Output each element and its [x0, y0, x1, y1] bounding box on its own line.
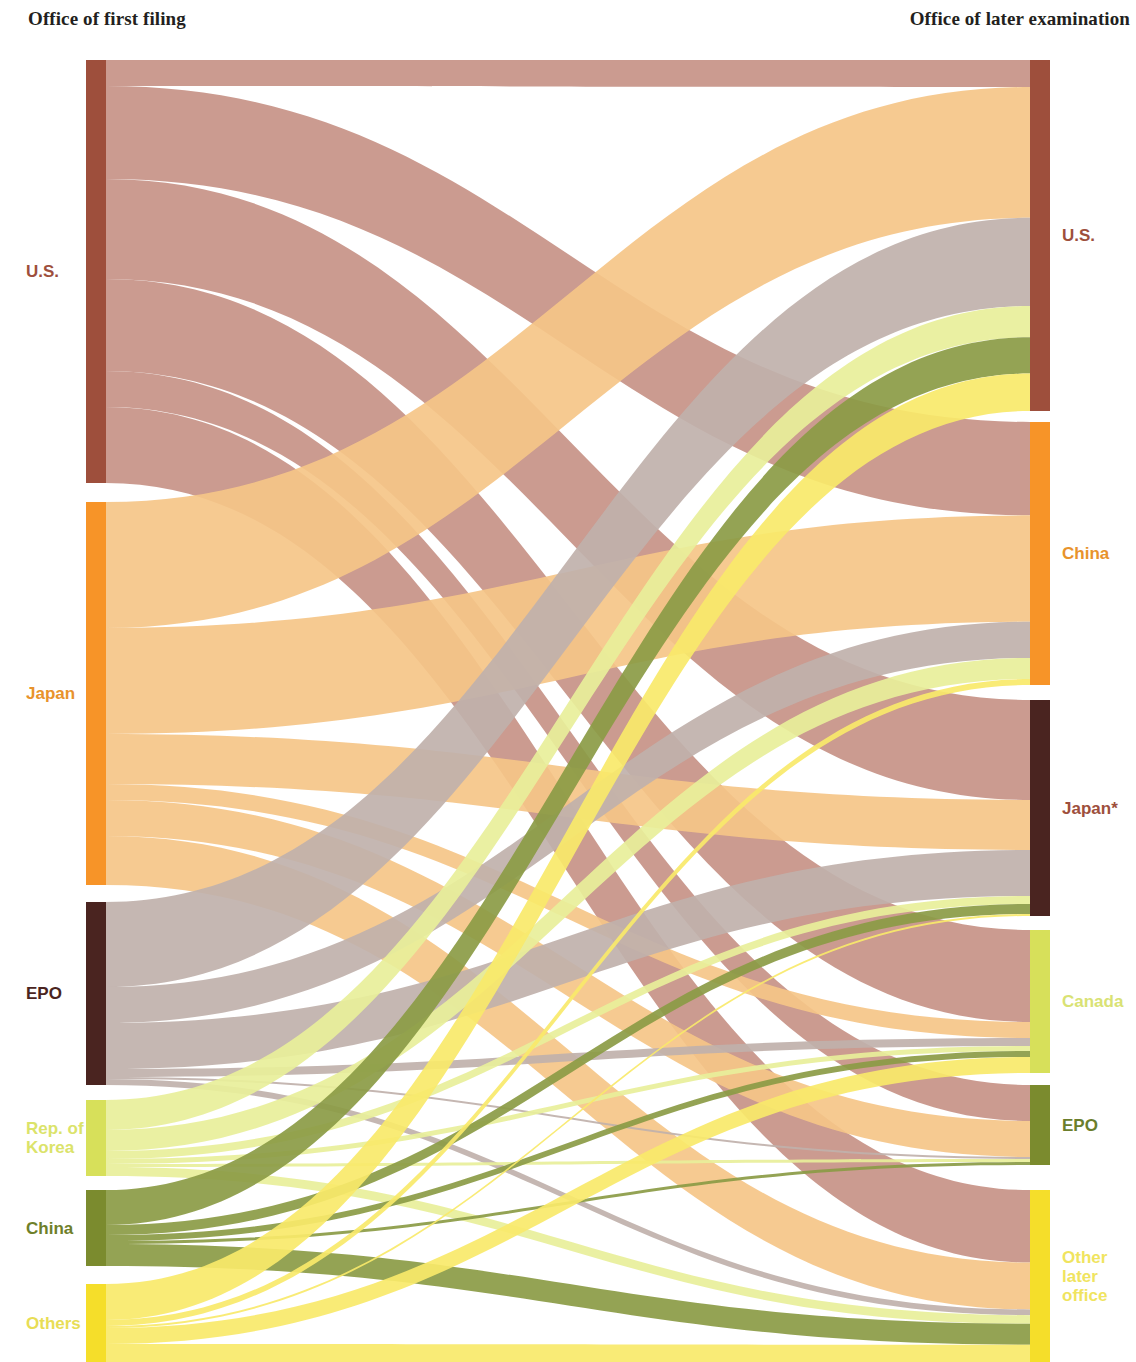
- sankey-node-epo[interactable]: [86, 902, 106, 1085]
- sankey-link: [106, 60, 1030, 87]
- sankey-node-label-japan: Japan: [26, 684, 82, 703]
- sankey-node-korea[interactable]: [86, 1100, 106, 1176]
- sankey-node-others[interactable]: [86, 1284, 106, 1362]
- sankey-node-label-r_china: China: [1062, 544, 1136, 563]
- sankey-link: [106, 1344, 1030, 1362]
- sankey-diagram: [0, 0, 1136, 1362]
- sankey-node-us[interactable]: [86, 60, 106, 483]
- sankey-node-label-others: Others: [26, 1314, 82, 1333]
- sankey-links: [106, 60, 1030, 1362]
- sankey-node-china[interactable]: [86, 1190, 106, 1266]
- sankey-node-label-r_japan: Japan*: [1062, 799, 1136, 818]
- sankey-node-r_epo[interactable]: [1030, 1085, 1050, 1165]
- sankey-node-label-us: U.S.: [26, 262, 82, 281]
- sankey-node-r_canada[interactable]: [1030, 930, 1050, 1073]
- sankey-node-r_us[interactable]: [1030, 60, 1050, 411]
- sankey-node-label-r_us: U.S.: [1062, 226, 1136, 245]
- sankey-node-label-china: China: [26, 1219, 82, 1238]
- sankey-node-r_china[interactable]: [1030, 422, 1050, 685]
- sankey-node-r_other[interactable]: [1030, 1190, 1050, 1362]
- sankey-node-label-korea: Rep. of Korea: [26, 1119, 82, 1157]
- sankey-node-label-epo: EPO: [26, 984, 82, 1003]
- sankey-node-japan[interactable]: [86, 502, 106, 885]
- sankey-node-label-r_epo: EPO: [1062, 1116, 1136, 1135]
- sankey-node-r_japan[interactable]: [1030, 700, 1050, 916]
- sankey-node-label-r_canada: Canada: [1062, 992, 1136, 1011]
- sankey-node-label-r_other: Other later office: [1062, 1248, 1136, 1305]
